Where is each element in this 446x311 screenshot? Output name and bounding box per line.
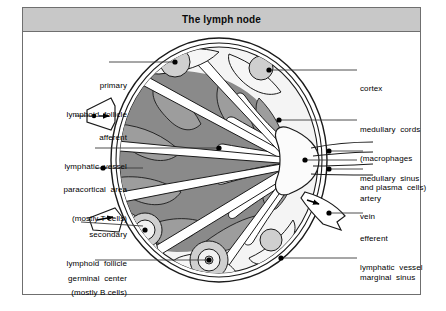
label-line: secondary	[31, 230, 127, 240]
page-title: The lymph node	[182, 15, 261, 25]
label-line: germinal center	[31, 274, 127, 284]
primary-follicle	[260, 229, 282, 251]
lymph-node-figure: The lymph node	[0, 0, 446, 311]
label-line: paracortical area	[31, 185, 127, 195]
label-line: medullary cords	[360, 125, 446, 135]
label-line: primary	[31, 81, 127, 91]
label-line: afferent	[31, 133, 127, 143]
label-germinal-center: germinal center	[31, 255, 127, 303]
label-line: efferent	[360, 234, 446, 244]
figure-frame: The lymph node	[22, 7, 421, 295]
figure-title-bar: The lymph node	[23, 8, 420, 32]
label-marginal-sinus: marginal sinus	[360, 254, 446, 302]
label-line: cortex	[360, 84, 444, 94]
label-line: marginal sinus	[360, 273, 446, 283]
